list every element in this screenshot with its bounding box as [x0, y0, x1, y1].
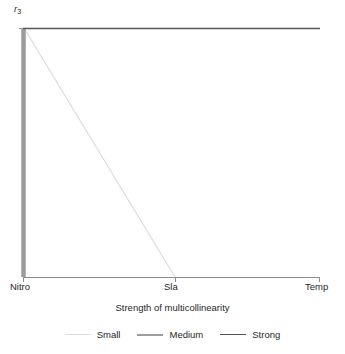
- x-tick-label-sla: Sla: [164, 281, 178, 292]
- y-axis-label: r3: [14, 4, 21, 15]
- y-axis-label-subscript: 3: [17, 8, 21, 15]
- axis-lines: [24, 28, 321, 278]
- legend-swatch-strong: [220, 334, 246, 335]
- legend-label-small: Small: [97, 329, 121, 340]
- plot-area: [0, 0, 345, 354]
- axis-ticks: [19, 29, 320, 283]
- series-line-small: [24, 28, 175, 277]
- x-tick-label-temp: Temp: [305, 281, 328, 292]
- legend-item-small: Small: [65, 329, 121, 340]
- legend-item-strong: Strong: [220, 329, 280, 340]
- chart-container: r3 Nitro Sla Temp Strength of multicolli…: [0, 0, 345, 354]
- legend-item-medium: Medium: [137, 329, 203, 340]
- legend-swatch-medium: [137, 334, 163, 336]
- chart-legend: Small Medium Strong: [0, 329, 345, 340]
- x-axis-title: Strength of multicollinearity: [0, 302, 345, 313]
- legend-label-strong: Strong: [252, 329, 280, 340]
- legend-swatch-small: [65, 334, 91, 335]
- legend-label-medium: Medium: [169, 329, 203, 340]
- x-tick-label-nitro: Nitro: [10, 281, 30, 292]
